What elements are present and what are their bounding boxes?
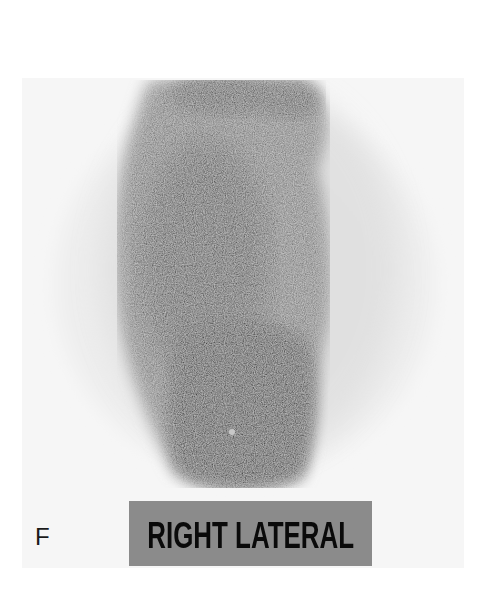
view-label-text: RIGHT LATERAL (147, 515, 354, 557)
marker-dot (229, 429, 235, 435)
field-of-view (43, 75, 447, 487)
panel-letter: F (35, 524, 50, 550)
view-label-box: RIGHT LATERAL (129, 501, 372, 566)
